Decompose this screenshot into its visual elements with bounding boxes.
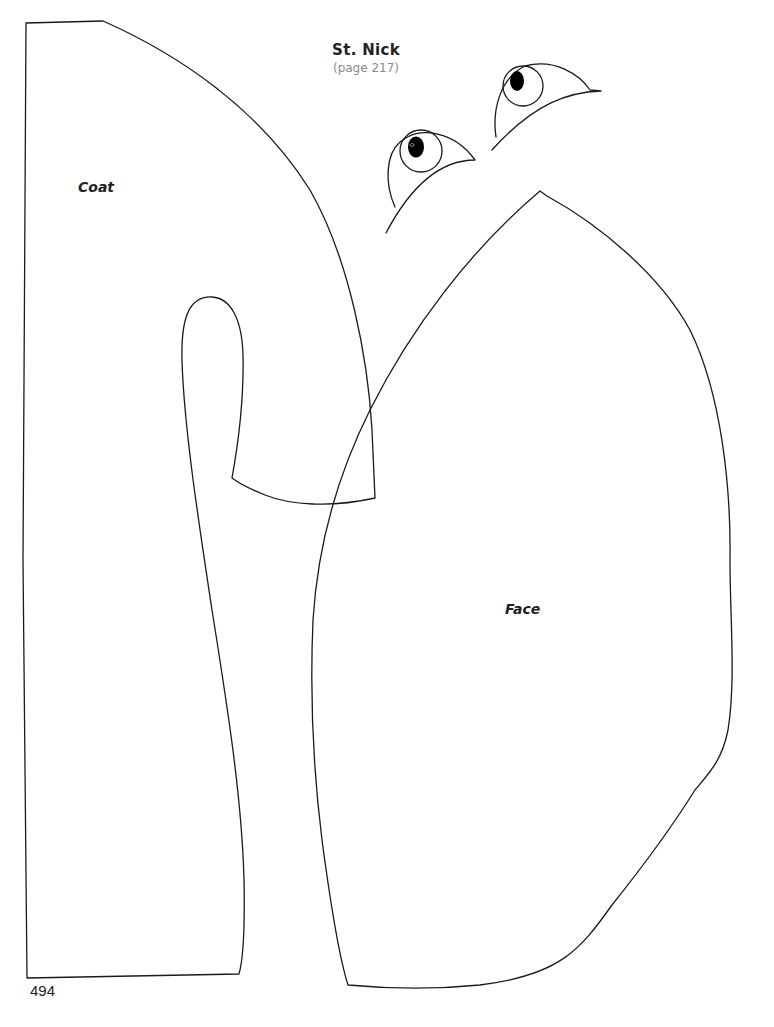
eye-left [386, 130, 475, 233]
face-outline [312, 191, 732, 988]
pattern-artwork [0, 0, 774, 1027]
eye-right [492, 64, 601, 150]
eye-left-pupil [408, 137, 424, 158]
page-number: 494 [30, 982, 55, 999]
page-reference: (page 217) [296, 61, 436, 75]
page-title: St. Nick [296, 41, 436, 59]
face-label: Face [505, 601, 540, 617]
eye-left-lid [386, 133, 475, 233]
coat-label: Coat [78, 179, 114, 195]
pattern-page: St. Nick (page 217) Coat Face 494 [0, 0, 774, 1027]
eye-right-pupil [510, 71, 524, 91]
coat-outline [23, 21, 375, 978]
eye-right-lid [492, 64, 601, 150]
